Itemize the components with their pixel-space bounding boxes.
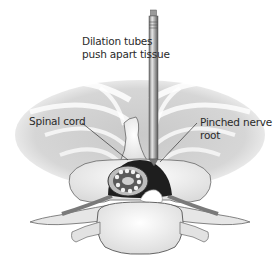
label-dilation-tubes: Dilation tubes push apart tissue xyxy=(82,35,150,61)
label-dilation-line2: push apart tissue xyxy=(82,48,150,61)
dilation-tube xyxy=(149,10,158,166)
label-spinal-cord: Spinal cord xyxy=(29,115,85,128)
pedicle-right xyxy=(180,222,209,242)
spinal-cord xyxy=(108,166,148,196)
spine-diagram: Dilation tubes push apart tissue Spinal … xyxy=(0,0,280,267)
label-pinched-line2: root xyxy=(200,129,272,142)
label-pinched-nerve-root: Pinched nerve root xyxy=(200,116,272,142)
vertebral-body xyxy=(97,202,183,254)
label-dilation-line1: Dilation tubes xyxy=(82,35,150,48)
label-pinched-line1: Pinched nerve xyxy=(200,116,272,129)
pedicle-left xyxy=(72,222,101,242)
